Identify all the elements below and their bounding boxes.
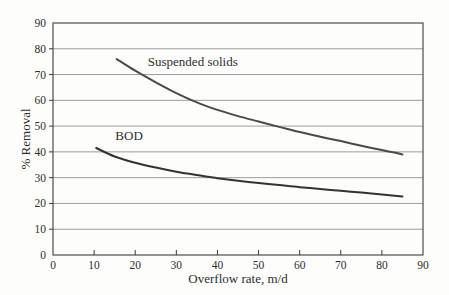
x-tick-label: 10 (88, 259, 100, 271)
y-tick-label: 10 (35, 223, 47, 235)
x-tick-label: 60 (294, 259, 306, 271)
chart-figure: 01020304050607080900102030405060708090Ov… (0, 0, 449, 295)
y-tick-label: 60 (35, 94, 47, 106)
series-path-suspended-solids (117, 59, 403, 154)
y-tick-label: 90 (35, 17, 47, 29)
series-label-bod: BOD (115, 128, 142, 143)
y-tick-label: 0 (40, 249, 46, 261)
y-tick-label: 70 (35, 69, 47, 81)
y-tick-label: 80 (35, 43, 47, 55)
plot-frame (53, 23, 423, 255)
y-tick-label: 20 (35, 197, 47, 209)
x-tick-label: 40 (212, 259, 224, 271)
series-path-bod (96, 148, 402, 197)
x-axis-title: Overflow rate, m/d (188, 271, 288, 286)
y-axis-title: % Removal (18, 108, 33, 169)
y-tick-label: 30 (35, 172, 47, 184)
x-tick-label: 20 (129, 259, 141, 271)
x-tick-label: 70 (335, 259, 347, 271)
y-tick-label: 50 (35, 120, 47, 132)
series-label-suspended-solids: Suspended solids (148, 54, 238, 69)
x-tick-label: 0 (50, 259, 56, 271)
x-tick-label: 90 (417, 259, 429, 271)
chart-canvas: 01020304050607080900102030405060708090Ov… (0, 0, 449, 295)
x-tick-label: 50 (253, 259, 265, 271)
y-tick-label: 40 (35, 146, 47, 158)
x-tick-label: 30 (171, 259, 183, 271)
x-tick-label: 80 (376, 259, 388, 271)
